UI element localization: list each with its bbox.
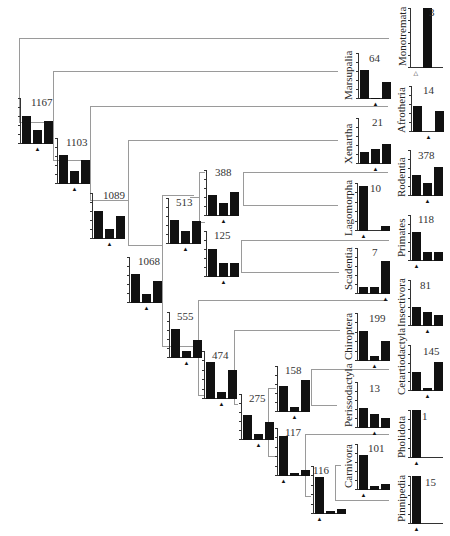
- axis-tick: [127, 266, 130, 267]
- histogram-bar: [193, 340, 202, 358]
- axis-tick: [275, 402, 278, 403]
- axis-tick: [356, 136, 359, 137]
- histogram-bar: [370, 486, 379, 490]
- triangle-marker-icon: ▲: [72, 186, 78, 192]
- axis-tick: [408, 410, 411, 411]
- histogram-bar: [208, 195, 217, 216]
- axis-tick: [408, 186, 411, 187]
- axis-tick: [166, 225, 169, 226]
- histogram-bar: [423, 183, 432, 196]
- axis-tick: [408, 298, 411, 299]
- axis-tick: [167, 321, 170, 322]
- axis-tick: [202, 360, 205, 361]
- histogram-bar: [370, 287, 379, 294]
- histogram-bar: [228, 370, 237, 399]
- axis-tick: [355, 275, 358, 276]
- histogram-bar: [326, 511, 335, 514]
- taxon-label: Scadentia: [342, 247, 354, 290]
- axis-tick: [409, 113, 412, 114]
- histogram-bar: [412, 307, 421, 326]
- axis-tick: [355, 444, 358, 445]
- histogram-bar: [105, 229, 114, 239]
- axis-tick: [204, 188, 207, 189]
- axis-tick: [356, 62, 359, 63]
- histogram-bar: [290, 407, 299, 412]
- axis-tick: [275, 411, 278, 412]
- node-count: 125: [214, 229, 231, 241]
- histogram-bar: [360, 70, 369, 99]
- axis-tick: [55, 183, 58, 184]
- axis-tick: [275, 447, 278, 448]
- histogram-bar: [33, 130, 42, 144]
- node-count: 1089: [103, 189, 125, 201]
- axis-tick: [166, 234, 169, 235]
- histogram-bar: [142, 294, 151, 303]
- axis-tick: [356, 145, 359, 146]
- histogram-bar: [412, 232, 421, 261]
- axis-tick: [275, 384, 278, 385]
- axis-tick: [408, 448, 411, 449]
- axis-tick: [408, 242, 411, 243]
- histogram-bar: [301, 470, 310, 476]
- axis-tick: [408, 195, 411, 196]
- taxon-label: Xenartha: [342, 124, 354, 164]
- axis-tick: [356, 127, 359, 128]
- axis-tick: [90, 211, 93, 212]
- triangle-marker-icon: ▲: [317, 516, 323, 522]
- histogram-bar: [59, 155, 68, 184]
- taxon-count: 64: [369, 52, 380, 64]
- axis-tick: [18, 107, 21, 108]
- taxon-label: Afrotheria: [395, 87, 407, 133]
- node-count: 513: [176, 196, 193, 208]
- taxon-count: 145: [423, 345, 440, 357]
- tree-branch: [198, 300, 388, 301]
- histogram-bar: [434, 252, 443, 261]
- axis-tick: [202, 370, 205, 371]
- axis-tick: [356, 163, 359, 164]
- triangle-marker-icon: ▲: [425, 198, 431, 204]
- triangle-marker-icon: ▲: [373, 101, 379, 107]
- histogram-bar: [370, 356, 379, 361]
- taxon-label: Chiroptera: [342, 313, 354, 360]
- axis-tick: [355, 360, 358, 361]
- axis-tick: [408, 363, 411, 364]
- hollow-triangle-marker-icon: △: [414, 70, 419, 76]
- axis-tick: [355, 341, 358, 342]
- histogram-bar: [315, 477, 324, 514]
- axis-tick: [355, 391, 358, 392]
- tree-branch: [243, 172, 388, 173]
- axis-tick: [18, 143, 21, 144]
- axis-tick: [55, 174, 58, 175]
- histogram-axis: [57, 138, 58, 184]
- axis-tick: [275, 456, 278, 457]
- axis-tick: [239, 421, 242, 422]
- histogram-axis: [410, 280, 411, 326]
- tree-branch: [199, 172, 205, 173]
- axis-tick: [355, 313, 358, 314]
- axis-tick: [204, 276, 207, 277]
- tree-branch: [311, 369, 312, 405]
- histogram-bar: [181, 231, 190, 244]
- histogram-axis: [410, 476, 411, 524]
- axis-tick: [408, 260, 411, 261]
- axis-tick: [167, 330, 170, 331]
- taxon-label: Pinnipedia: [395, 475, 407, 522]
- histogram-bar: [70, 171, 79, 184]
- histogram-bar: [412, 410, 421, 458]
- axis-tick: [355, 284, 358, 285]
- histogram-bar: [254, 434, 263, 440]
- histogram-bar: [434, 315, 443, 326]
- taxon-count: 378: [418, 149, 435, 161]
- taxon-label: Carnivora: [342, 444, 354, 488]
- histogram-bar: [170, 220, 179, 244]
- axis-tick: [167, 312, 170, 313]
- histogram-axis: [357, 382, 358, 428]
- axis-tick: [408, 177, 411, 178]
- phylogenetic-tree-diagram: ▲1167▲1103▲1089▲1068▲513▲388▲125▲555▲474…: [0, 0, 450, 536]
- axis-tick: [275, 437, 278, 438]
- axis-tick: [408, 523, 411, 524]
- histogram-axis: [206, 231, 207, 277]
- axis-tick: [167, 348, 170, 349]
- axis-tick: [408, 233, 411, 234]
- histogram-axis: [411, 86, 412, 132]
